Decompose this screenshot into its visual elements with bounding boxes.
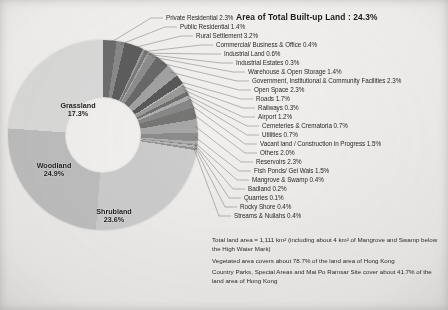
- callout-label: Rural Settlement 3.2%: [196, 32, 258, 39]
- callout-label: Reservoirs 2.3%: [256, 158, 301, 165]
- wedge-label-woodland-value: 24.9%: [14, 170, 94, 178]
- callout-label: Streams & Nullahs 0.4%: [234, 212, 301, 219]
- callout-label: Industrial Land 0.6%: [224, 50, 280, 57]
- callout-label: Industrial Estates 0.3%: [236, 59, 299, 66]
- footnote-item: Vegetated area covers about 78.7% of the…: [212, 257, 440, 266]
- chart-canvas: Grassland 17.3% Woodland 24.9% Shrubland…: [0, 0, 448, 310]
- footnote-item: Country Parks, Special Areas and Mai Po …: [212, 268, 440, 286]
- callout-label: Fish Ponds/ Gei Wais 1.5%: [254, 167, 329, 174]
- callout-label: Roads 1.7%: [256, 95, 290, 102]
- footnote-item: Total land area = 1,111 km² (including a…: [212, 236, 440, 254]
- callout-label: Others 2.0%: [260, 149, 294, 156]
- callout-label: Government, Institutional & Community Fa…: [252, 77, 401, 84]
- callout-label-list: Private Residential 2.3%Public Residenti…: [104, 14, 444, 220]
- callout-label: Cemeteries & Crematoria 0.7%: [262, 122, 348, 129]
- callout-label: Warehouse & Open Storage 1.4%: [248, 68, 342, 75]
- callout-label: Quarries 0.1%: [244, 194, 284, 201]
- footnotes: Total land area = 1,111 km² (including a…: [212, 236, 440, 289]
- callout-label: Vacant land / Construction in Progress 1…: [260, 140, 381, 147]
- callout-label: Badland 0.2%: [248, 185, 287, 192]
- callout-label: Open Space 2.3%: [254, 86, 304, 93]
- callout-label: Utilities 0.7%: [262, 131, 298, 138]
- callout-label: Public Residential 1.4%: [180, 23, 245, 30]
- callout-label: Railways 0.3%: [258, 104, 299, 111]
- callout-label: Mangrove & Swamp 0.4%: [252, 176, 324, 183]
- wedge-label-woodland: Woodland 24.9%: [14, 162, 94, 178]
- callout-label: Private Residential 2.3%: [166, 14, 233, 21]
- callout-label: Commercial/ Business & Office 0.4%: [216, 41, 317, 48]
- callout-label: Rocky Shore 0.4%: [240, 203, 291, 210]
- callout-label: Airport 1.2%: [258, 113, 292, 120]
